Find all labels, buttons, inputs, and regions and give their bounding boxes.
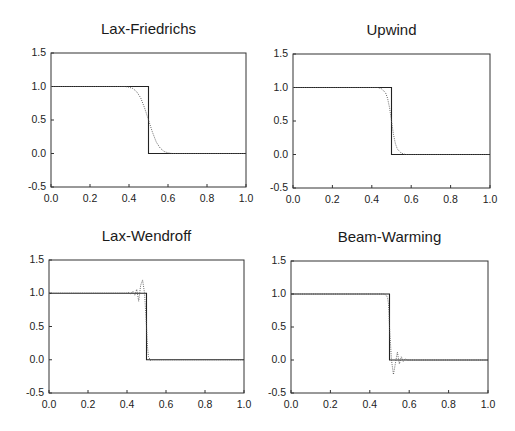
x-tick-label: 0.4 — [355, 398, 385, 410]
x-tick-label: 0.6 — [394, 398, 424, 410]
x-tick-label: 0.2 — [315, 398, 345, 410]
y-tick-label: 1.0 — [260, 287, 286, 299]
x-tick-label: 0.0 — [276, 398, 306, 410]
x-tick-label: 1.0 — [473, 398, 503, 410]
y-tick-label: 1.5 — [260, 254, 286, 266]
y-tick-label: -0.5 — [260, 386, 286, 398]
plot-area — [0, 0, 515, 431]
x-tick-label: 0.8 — [434, 398, 464, 410]
y-tick-label: 0.0 — [260, 353, 286, 365]
y-tick-label: 0.5 — [260, 320, 286, 332]
